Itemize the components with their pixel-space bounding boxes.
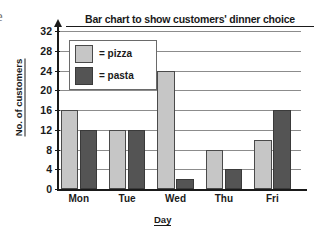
- legend-swatch-pasta-icon: [75, 67, 93, 85]
- legend-label-pizza: = pizza: [99, 48, 132, 59]
- y-axis-tick: [55, 71, 60, 72]
- x-axis-category-label-thu: Thu: [200, 193, 249, 204]
- y-axis-tick-label: 0: [32, 184, 52, 194]
- y-axis-tick: [55, 169, 60, 170]
- x-axis-category-label-fri: Fri: [248, 193, 297, 204]
- bar-mon-pasta: [80, 130, 98, 189]
- grid-line: [59, 110, 301, 111]
- x-axis-label-text: Day: [154, 214, 171, 226]
- bar-wed-pizza: [157, 71, 175, 190]
- bar-mon-pizza: [61, 110, 79, 189]
- y-axis-tick: [55, 150, 60, 151]
- bar-chart: e Bar chart to show customers' dinner ch…: [0, 0, 320, 237]
- legend-swatch-pizza-icon: [75, 45, 93, 63]
- y-axis-tick: [55, 189, 60, 190]
- bar-fri-pasta: [273, 110, 291, 189]
- y-axis-tick: [55, 130, 60, 131]
- page-edge-text-fragment: e: [0, 6, 8, 26]
- y-axis-label: No. of customers: [13, 48, 24, 148]
- y-axis-label-text: No. of customers: [13, 59, 26, 137]
- y-axis-tick-label: 32: [32, 26, 52, 36]
- legend-label-pasta: = pasta: [99, 70, 134, 81]
- bar-thu-pizza: [206, 150, 224, 190]
- x-axis-category-label-wed: Wed: [151, 193, 200, 204]
- y-axis-tick-label: 4: [32, 164, 52, 174]
- y-axis-tick: [55, 110, 60, 111]
- bar-tue-pasta: [128, 130, 146, 189]
- y-axis-tick-label: 16: [32, 105, 52, 115]
- y-axis-tick-label: 24: [32, 66, 52, 76]
- x-axis-label: Day: [154, 214, 171, 225]
- y-axis-tick-label: 12: [32, 125, 52, 135]
- x-axis-category-label-tue: Tue: [103, 193, 152, 204]
- grid-line: [59, 31, 301, 32]
- bar-wed-pasta: [176, 179, 194, 189]
- y-axis-tick: [55, 31, 60, 32]
- y-axis-tick-label: 28: [32, 46, 52, 56]
- y-axis-tick-label: 20: [32, 85, 52, 95]
- bar-thu-pasta: [225, 169, 243, 189]
- bar-fri-pizza: [254, 140, 272, 189]
- chart-title: Bar chart to show customers' dinner choi…: [66, 13, 314, 27]
- y-axis-tick-label: 8: [32, 145, 52, 155]
- chart-legend: = pizza = pasta: [69, 40, 157, 90]
- bar-tue-pizza: [109, 130, 127, 189]
- y-axis-tick: [55, 90, 60, 91]
- x-axis-category-label-mon: Mon: [55, 193, 104, 204]
- grid-line: [59, 90, 301, 91]
- y-axis-tick: [55, 51, 60, 52]
